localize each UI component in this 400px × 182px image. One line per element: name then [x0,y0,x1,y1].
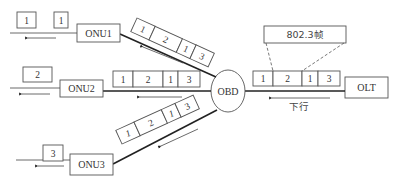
frame-cell-label: 1 [121,75,126,85]
onu2-node: ONU2 [60,80,103,97]
dashed-leader-right [302,43,344,71]
onu2-label: ONU2 [68,83,95,94]
onu2-received-frames: 2 [23,67,52,82]
frame-cell-label: 3 [327,74,332,84]
frame-cell-label: 1 [261,74,266,84]
olt-label: OLT [357,82,376,93]
onu1-node: ONU1 [77,24,120,42]
frame-cell-label: 1 [168,75,173,85]
received-frame-label: 1 [24,16,29,26]
onu1-frame-sequence: 1 2 1 3 [131,18,215,67]
onu3-node: ONU3 [70,154,113,175]
frame-label-callout: 802.3帧 [264,26,346,71]
trunk-frame-sequence: 1 2 1 3 [253,71,340,86]
received-frame-label: 1 [59,16,64,26]
frame-cell-label: 2 [146,75,151,85]
dashed-leader-left [266,43,273,71]
epon-downstream-diagram: OLT 802.3帧 1 2 1 3 下行 OBD 1 2 1 3 [0,0,400,182]
received-frame-label: 2 [35,70,40,80]
olt-node: OLT [345,77,388,98]
frame-cell-label: 3 [187,75,192,85]
obd-label: OBD [217,86,238,97]
received-frame-label: 3 [51,149,56,159]
downstream-arrow-icon [161,129,198,146]
frame-cell-label: 1 [308,74,313,84]
onu3-label: ONU3 [78,159,105,170]
onu1-received-frames: 1 1 [17,12,68,28]
onu3-frame-sequence: 1 2 1 3 [116,95,200,144]
direction-label: 下行 [289,101,309,112]
onu1-label: ONU1 [85,28,112,39]
onu3-received-frames: 3 [43,145,63,161]
frame-cell-label: 2 [285,74,290,84]
frame-label-text: 802.3帧 [286,29,323,40]
onu2-frame-sequence: 1 2 1 3 [113,71,200,87]
